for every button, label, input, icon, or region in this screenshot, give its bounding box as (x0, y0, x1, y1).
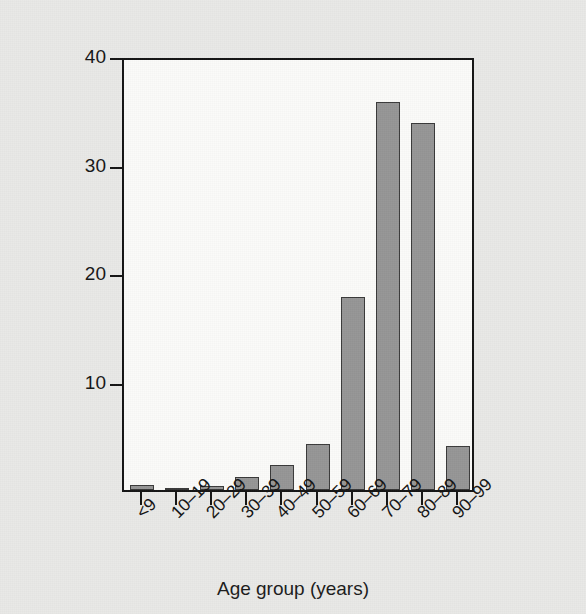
y-tick-mark (110, 58, 122, 60)
bar (130, 485, 154, 490)
bars-container (124, 60, 472, 490)
x-axis-title: Age group (years) (0, 578, 586, 600)
y-tick-label: 20 (46, 263, 106, 285)
y-tick-label: 40 (46, 46, 106, 68)
x-tick-label: <9 (132, 494, 161, 523)
y-tick-mark (110, 167, 122, 169)
bar (376, 102, 400, 490)
y-tick-mark (110, 275, 122, 277)
plot-area (122, 58, 474, 492)
figure-canvas: Fatalities (percent) 10203040 <910–1920–… (0, 0, 586, 614)
y-tick-label: 10 (46, 372, 106, 394)
bar (341, 297, 365, 490)
y-tick-mark (110, 384, 122, 386)
y-tick-label: 30 (46, 155, 106, 177)
bar (411, 123, 435, 490)
